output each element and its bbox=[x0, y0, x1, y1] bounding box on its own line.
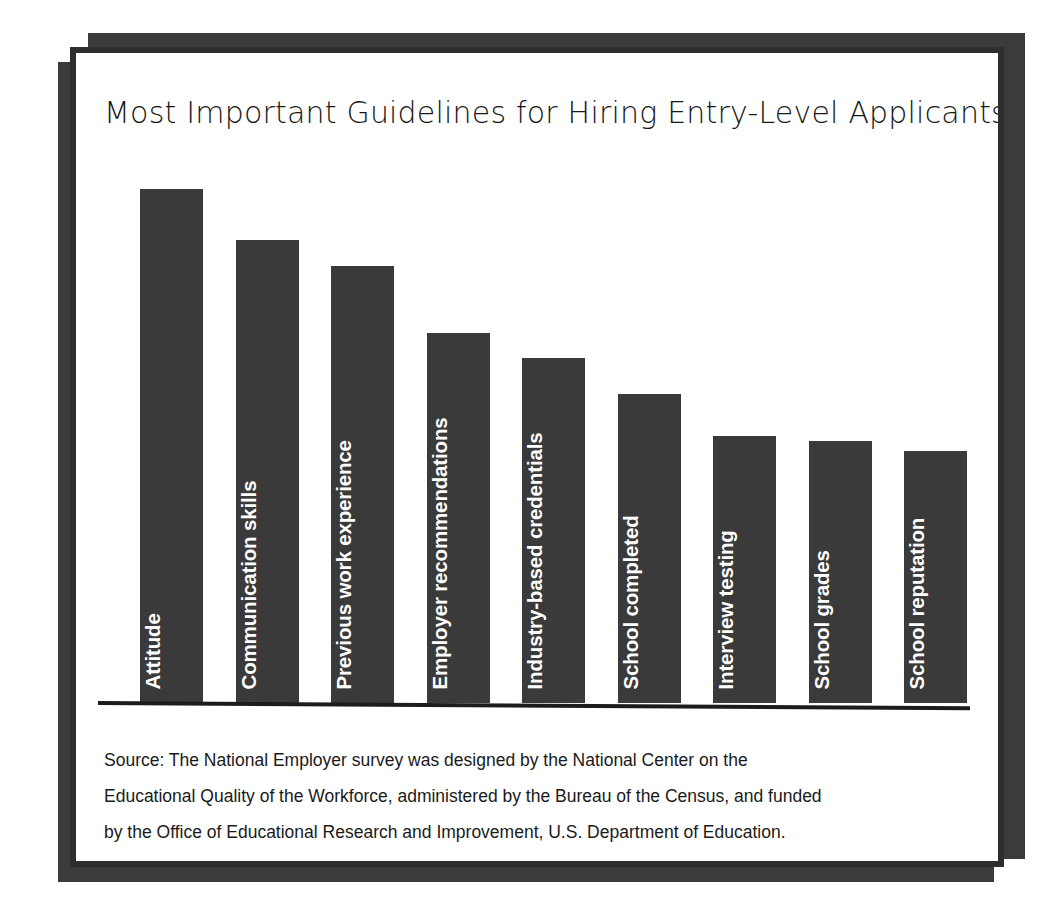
bar-label: Interview testing bbox=[716, 530, 737, 689]
bar-label: Industry-based credentials bbox=[525, 432, 546, 689]
source-note: Source: The National Employer survey was… bbox=[104, 743, 970, 851]
bar-label: School reputation bbox=[907, 517, 928, 689]
bar-attitude: Attitude bbox=[140, 189, 203, 703]
bar-previous-work-experience: Previous work experience bbox=[331, 266, 394, 703]
bar-label: Attitude bbox=[143, 613, 164, 689]
bar-label: School grades bbox=[811, 550, 832, 689]
bar-series: AttitudeCommunication skillsPrevious wor… bbox=[100, 163, 984, 703]
source-line: Source: The National Employer survey was… bbox=[104, 743, 970, 779]
bar-school-grades: School grades bbox=[809, 441, 872, 703]
bar-interview-testing: Interview testing bbox=[713, 436, 776, 703]
chart-card: Most Important Guidelines for Hiring Ent… bbox=[70, 47, 1004, 867]
bar-label: Previous work experience bbox=[334, 440, 355, 689]
bar-label: Employer recommendations bbox=[429, 417, 450, 689]
plot-area: AttitudeCommunication skillsPrevious wor… bbox=[100, 163, 984, 703]
chart-figure: Most Important Guidelines for Hiring Ent… bbox=[0, 0, 1043, 908]
bar-label: Communication skills bbox=[238, 480, 259, 689]
bar-communication-skills: Communication skills bbox=[236, 240, 299, 703]
chart-title: Most Important Guidelines for Hiring Ent… bbox=[104, 95, 1004, 130]
bar-employer-recommendations: Employer recommendations bbox=[427, 333, 490, 703]
source-line: Educational Quality of the Workforce, ad… bbox=[104, 779, 970, 815]
bar-school-completed: School completed bbox=[618, 394, 681, 703]
source-line: by the Office of Educational Research an… bbox=[104, 815, 970, 851]
bar-industry-based-credentials: Industry-based credentials bbox=[522, 358, 585, 703]
bar-label: School completed bbox=[620, 515, 641, 689]
bar-school-reputation: School reputation bbox=[904, 451, 967, 703]
